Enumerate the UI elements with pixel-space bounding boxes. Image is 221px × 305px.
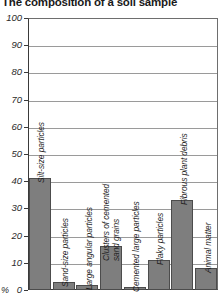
y-axis-tick-label: 80 bbox=[0, 67, 22, 77]
y-axis-tick-label: 0 bbox=[8, 285, 22, 295]
bar-category-label: Fibrous plant debris bbox=[180, 134, 189, 206]
bar-category-label: Animal matter bbox=[204, 223, 213, 273]
bar-category-label: Large angular particles bbox=[85, 207, 94, 290]
bar-category-label: Flaky particles bbox=[156, 213, 165, 265]
y-tick-mark bbox=[24, 290, 28, 291]
y-axis-tick-label: 90 bbox=[0, 40, 22, 50]
soil-composition-chart: The composition of a soil sample 0102030… bbox=[0, 0, 221, 305]
y-axis-tick-label: 50 bbox=[0, 149, 22, 159]
y-axis-tick-label: 30 bbox=[0, 203, 22, 213]
y-axis-tick-label: 10 bbox=[0, 258, 22, 268]
chart-title: The composition of a soil sample bbox=[2, 0, 220, 8]
y-axis-tick-label: 70 bbox=[0, 95, 22, 105]
bar-category-label: Silt-size particles bbox=[37, 123, 46, 184]
bar-category-label: Sand-size particles bbox=[61, 218, 70, 287]
y-axis-tick-label: 60 bbox=[0, 122, 22, 132]
y-axis-tick-label: 100 bbox=[0, 13, 22, 23]
category-labels-group: Silt-size particlesSand-size particlesLa… bbox=[28, 18, 218, 290]
bar-category-label: Cemented large particles bbox=[132, 202, 141, 293]
y-axis-unit-label: % bbox=[1, 285, 9, 295]
bar-category-label: Clusters of cemented sand grains bbox=[102, 184, 121, 261]
y-axis-tick-label: 20 bbox=[0, 231, 22, 241]
y-axis-tick-label: 40 bbox=[0, 176, 22, 186]
